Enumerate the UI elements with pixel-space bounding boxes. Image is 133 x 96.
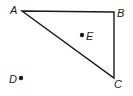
- point-d-dot: [19, 76, 23, 80]
- diagram-svg: A B C D E: [0, 0, 133, 96]
- label-b: B: [117, 7, 124, 19]
- point-e-dot: [80, 33, 84, 37]
- triangle-abc: [22, 11, 114, 78]
- label-c: C: [114, 78, 122, 90]
- label-e: E: [86, 30, 94, 42]
- label-a: A: [9, 4, 17, 16]
- geometry-diagram: A B C D E: [0, 0, 133, 96]
- label-d: D: [9, 73, 17, 85]
